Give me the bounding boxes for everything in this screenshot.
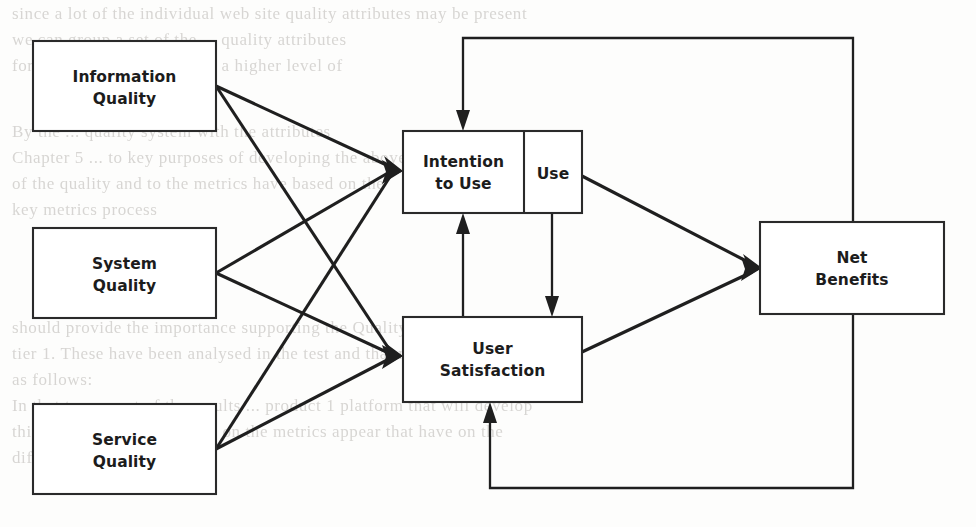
node-user-satisfaction[interactable]: User Satisfaction [403,317,582,402]
edge-use-to-user-satisfaction [545,213,559,317]
edge-service-quality-to-intention-to-use [216,172,393,449]
arrowhead-cluster-net-benefits [741,254,762,281]
arrowhead-up-satisfaction [483,402,497,423]
net-benefits-label-line2: Benefits [815,271,888,289]
service-quality-label-line2: Quality [93,453,157,471]
is-success-model-figure: Information Quality System Quality Servi… [0,0,976,527]
net-benefits-label-line1: Net [836,249,868,267]
node-net-benefits[interactable]: Net Benefits [760,222,944,314]
edge-user-satisfaction-to-intention-to-use [456,213,470,317]
system-quality-label-line2: Quality [93,277,157,295]
intention-to-use-label-line1: Intention [423,153,504,171]
arrowhead-cluster-user-satisfaction [382,342,403,369]
arrowhead-down-intention [456,110,470,131]
service-quality-label-line1: Service [92,431,157,449]
information-quality-label-line1: Information [73,68,177,86]
information-quality-label-line2: Quality [93,90,157,108]
intention-to-use-label-line2: to Use [435,175,491,193]
scanned-page: since a lot of the individual web site q… [0,0,976,527]
user-satisfaction-label-line2: Satisfaction [440,362,546,380]
edge-user-satisfaction-to-net-benefits [582,272,752,352]
edge-use-to-net-benefits [582,176,752,264]
node-service-quality[interactable]: Service Quality [33,404,216,494]
system-quality-label-line1: System [92,255,157,273]
arrowhead-down-satisfaction [545,296,559,317]
node-information-quality[interactable]: Information Quality [33,41,216,131]
use-label: Use [537,165,570,183]
edge-system-quality-to-intention-to-use [216,170,393,273]
node-system-quality[interactable]: System Quality [33,228,216,318]
diagram-canvas: Information Quality System Quality Servi… [0,0,976,527]
arrowhead-cluster-intention-to-use [382,156,403,184]
arrowhead-up-intention [456,213,470,234]
user-satisfaction-label-line1: User [472,340,513,358]
edge-service-quality-to-user-satisfaction [216,357,393,449]
node-intention-to-use-and-use[interactable]: Intention to Use Use [403,131,582,213]
